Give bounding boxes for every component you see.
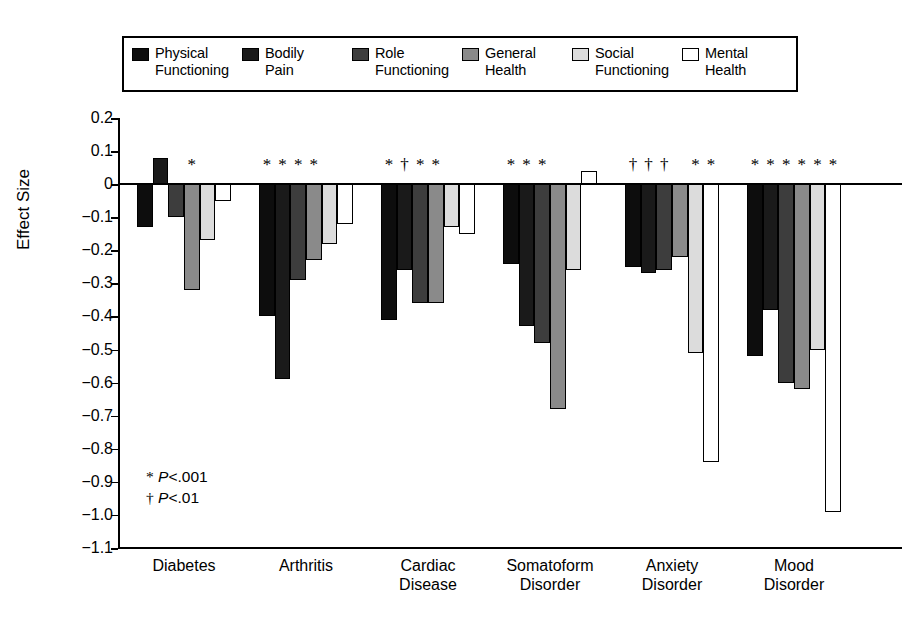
asterisk-icon-5-5: * <box>829 156 838 173</box>
bar-0-4 <box>200 184 216 240</box>
x-category-label-2: Cardiac Disease <box>399 556 457 594</box>
y-tick-label-6: −0.4 <box>81 308 113 324</box>
bar-2-3 <box>428 184 444 303</box>
legend-label-0: Physical Functioning <box>155 45 229 78</box>
asterisk-icon-5-4: * <box>813 156 822 173</box>
dagger-icon-4-2: † <box>660 156 669 173</box>
footnote-1-p: P <box>158 468 168 485</box>
x-category-label-4: Anxiety Disorder <box>642 556 702 594</box>
asterisk-icon-5-0: * <box>751 156 760 173</box>
legend-entry-3: General Health <box>462 45 572 78</box>
bar-5-3 <box>794 184 810 389</box>
bar-4-5 <box>703 184 719 462</box>
legend-swatch-bodily-pain <box>242 48 259 61</box>
y-axis-label: Effect Size <box>14 169 34 250</box>
footnote-2-p: P <box>158 489 168 506</box>
bar-4-1 <box>641 184 657 273</box>
bar-4-4 <box>688 184 704 353</box>
bar-1-3 <box>306 184 322 260</box>
y-tick-label-10: −0.8 <box>81 441 113 457</box>
asterisk-icon-5-1: * <box>766 156 775 173</box>
asterisk-icon-4-5: * <box>707 156 716 173</box>
legend-label-1: Bodily Pain <box>265 45 304 78</box>
bar-1-2 <box>290 184 306 280</box>
asterisk-icon-3-2: * <box>538 156 547 173</box>
legend-entry-4: Social Functioning <box>572 45 682 78</box>
y-tick-label-2: 0 <box>104 176 113 192</box>
asterisk-icon-0-3: * <box>188 156 197 173</box>
x-category-label-5: Mood Disorder <box>764 556 824 594</box>
asterisk-icon-5-2: * <box>782 156 791 173</box>
bar-2-2 <box>412 184 428 303</box>
y-tick-label-7: −0.5 <box>81 342 113 358</box>
y-tick-label-0: 0.2 <box>91 110 113 126</box>
bar-3-5 <box>581 171 597 184</box>
dagger-icon-2-1: † <box>400 156 409 173</box>
legend-label-3: General Health <box>485 45 536 78</box>
y-tick-label-13: −1.1 <box>81 540 113 556</box>
x-category-label-0: Diabetes <box>152 556 215 575</box>
dagger-icon-4-1: † <box>644 156 653 173</box>
legend-entry-5: Mental Health <box>682 45 792 78</box>
y-tick-label-8: −0.6 <box>81 375 113 391</box>
bar-4-3 <box>672 184 688 257</box>
x-category-label-1: Arthritis <box>279 556 333 575</box>
y-tick-label-12: −1.0 <box>81 507 113 523</box>
bar-3-1 <box>519 184 535 326</box>
y-tick-label-3: −0.1 <box>81 209 113 225</box>
y-tick-label-9: −0.7 <box>81 408 113 424</box>
dagger-icon: † <box>146 489 154 506</box>
bar-3-2 <box>534 184 550 343</box>
significance-footnote: * P<.001 † P<.01 <box>146 466 208 508</box>
plot-area: 0.20.10−0.1−0.2−0.3−0.4−0.5−0.6−0.7−0.8−… <box>118 118 900 548</box>
y-tick-label-5: −0.3 <box>81 275 113 291</box>
footnote-1-value: <.001 <box>168 468 207 485</box>
bar-1-5 <box>337 184 353 224</box>
bar-0-0 <box>137 184 153 227</box>
bar-0-1 <box>153 158 169 184</box>
bar-1-0 <box>259 184 275 316</box>
bar-0-5 <box>215 184 231 201</box>
dagger-icon-4-0: † <box>629 156 638 173</box>
bar-5-2 <box>778 184 794 382</box>
legend-swatch-role-functioning <box>352 48 369 61</box>
bar-4-2 <box>656 184 672 270</box>
footnote-line-1: * P<.001 <box>146 466 208 487</box>
bar-2-0 <box>381 184 397 320</box>
legend-label-2: Role Functioning <box>375 45 449 78</box>
legend-label-5: Mental Health <box>705 45 748 78</box>
bar-1-4 <box>322 184 338 244</box>
chart-legend: Physical FunctioningBodily PainRole Func… <box>122 36 798 92</box>
bar-3-3 <box>550 184 566 409</box>
legend-entry-1: Bodily Pain <box>242 45 352 78</box>
asterisk-icon-2-2: * <box>416 156 425 173</box>
asterisk-icon-1-1: * <box>278 156 287 173</box>
bar-2-1 <box>397 184 413 270</box>
legend-label-4: Social Functioning <box>595 45 669 78</box>
legend-swatch-social-functioning <box>572 48 589 61</box>
bar-2-5 <box>459 184 475 234</box>
bar-5-0 <box>747 184 763 356</box>
y-tick-label-1: 0.1 <box>91 143 113 159</box>
asterisk-icon-2-0: * <box>385 156 394 173</box>
asterisk-icon-4-4: * <box>691 156 700 173</box>
asterisk-icon-2-3: * <box>432 156 441 173</box>
legend-swatch-mental-health <box>682 48 699 61</box>
footnote-line-2: † P<.01 <box>146 487 208 508</box>
bar-5-1 <box>763 184 779 310</box>
asterisk-icon-3-1: * <box>522 156 531 173</box>
footnote-2-value: <.01 <box>168 489 199 506</box>
asterisk-icon-1-2: * <box>294 156 303 173</box>
bar-1-1 <box>275 184 291 379</box>
bar-0-2 <box>168 184 184 217</box>
bar-0-3 <box>184 184 200 290</box>
x-category-label-3: Somatoform Disorder <box>506 556 593 594</box>
legend-entry-2: Role Functioning <box>352 45 462 78</box>
legend-entry-0: Physical Functioning <box>132 45 242 78</box>
y-tick-label-11: −0.9 <box>81 474 113 490</box>
legend-swatch-general-health <box>462 48 479 61</box>
bar-3-0 <box>503 184 519 263</box>
legend-swatch-physical-functioning <box>132 48 149 61</box>
asterisk-icon-1-0: * <box>263 156 272 173</box>
asterisk-icon-1-3: * <box>310 156 319 173</box>
